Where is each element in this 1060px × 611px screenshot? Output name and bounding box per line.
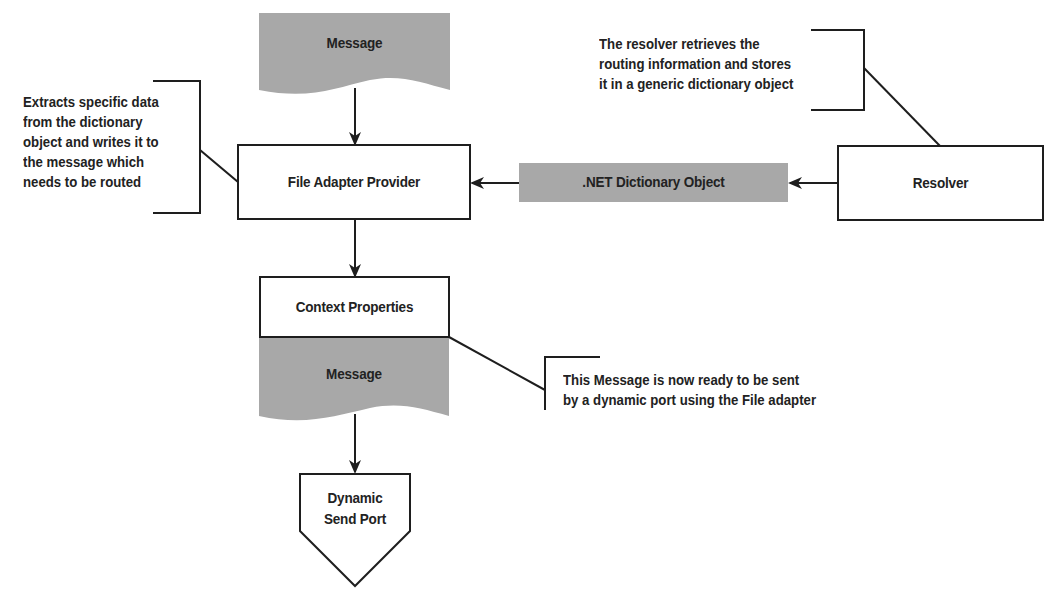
resolver-note-line: it in a generic dictionary object [599, 74, 793, 94]
message-note: This Message is now ready to be sent by … [563, 370, 816, 410]
message-bottom-label: Message [269, 365, 440, 382]
provider-note: Extracts specific data from the dictiona… [23, 92, 159, 192]
message-note-line: This Message is now ready to be sent [563, 370, 816, 390]
dynamic-send-port-label-line1: Dynamic [306, 489, 405, 506]
message-top-shape [259, 13, 450, 94]
provider-note-line: from the dictionary [23, 112, 159, 132]
provider-note-line: object and writes it to [23, 132, 159, 152]
diagram-canvas [0, 0, 1060, 611]
resolver-note-line: The resolver retrieves the [599, 34, 793, 54]
resolver-note-line: routing information and stores [599, 54, 793, 74]
context-properties-label: Context Properties [269, 298, 439, 315]
provider-note-line: the message which [23, 152, 159, 172]
provider-note-bracket [153, 81, 200, 213]
provider-note-line: Extracts specific data [23, 92, 159, 112]
resolver-note-bracket [811, 30, 864, 110]
dynamic-send-port-label-line2: Send Port [306, 510, 405, 527]
message-top-label: Message [269, 34, 441, 51]
resolver-label: Resolver [848, 174, 1033, 191]
message-note-leader [449, 337, 545, 390]
provider-note-leader [200, 150, 238, 182]
resolver-note-leader [864, 68, 940, 146]
provider-note-line: needs to be routed [23, 172, 159, 192]
net-dictionary-object-label: .NET Dictionary Object [532, 173, 774, 190]
resolver-note: The resolver retrieves the routing infor… [599, 34, 793, 94]
file-adapter-provider-label: File Adapter Provider [250, 173, 459, 190]
message-note-line: by a dynamic port using the File adapter [563, 390, 816, 410]
